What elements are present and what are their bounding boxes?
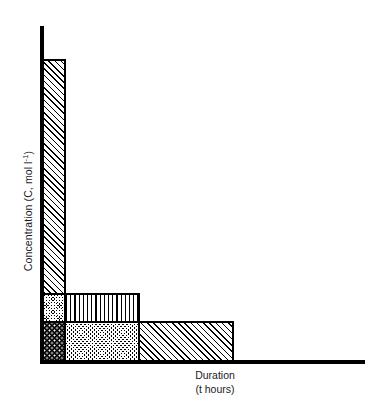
- bar-low-crosshatch: [64, 321, 140, 362]
- bar-low-diagonal: [138, 321, 234, 362]
- x-axis-line: [40, 360, 365, 364]
- x-axis-label-units: (t hours): [150, 383, 280, 397]
- x-axis-label-primary: Duration: [150, 369, 280, 383]
- x-axis-label: Duration (t hours): [150, 369, 280, 396]
- y-axis-label-text: Concentration (C, mol l: [22, 161, 34, 271]
- y-axis-label: Concentration (C, mol l-1): [22, 111, 34, 311]
- y-axis-label-close: ): [22, 151, 34, 155]
- y-axis-label-exponent: -1: [21, 154, 30, 161]
- chart-canvas: Concentration (C, mol l-1) Duration (t h…: [0, 0, 386, 406]
- y-axis-line: [40, 26, 44, 364]
